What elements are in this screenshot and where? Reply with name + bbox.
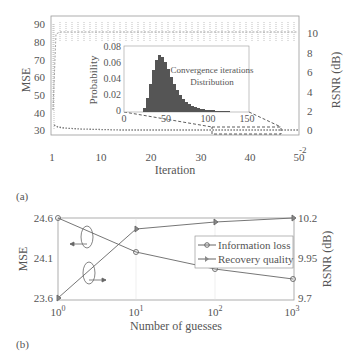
svg-text:150: 150 — [240, 113, 255, 124]
svg-text:40: 40 — [34, 107, 46, 119]
svg-text:0.04: 0.04 — [104, 73, 122, 84]
svg-text:70: 70 — [34, 54, 46, 66]
svg-text:20: 20 — [146, 151, 158, 163]
svg-text:10: 10 — [96, 151, 108, 163]
x-ticks: 100 101 102 103 — [51, 304, 300, 318]
svg-text:40: 40 — [245, 151, 257, 163]
legend: Information loss Recovery quality — [195, 236, 294, 268]
svg-text:4: 4 — [307, 86, 313, 98]
y-left-ticks: 24.6 24.1 23.6 — [34, 212, 54, 304]
svg-text:9.7: 9.7 — [298, 292, 312, 304]
legend-recovery-quality: Recovery quality — [218, 253, 294, 265]
axis-annotations — [70, 226, 106, 284]
panel-b-label: (b) — [16, 338, 29, 351]
svg-text:50: 50 — [34, 89, 46, 101]
panel-a-label: (a) — [16, 190, 29, 203]
svg-text:24.1: 24.1 — [34, 252, 53, 264]
svg-text:Probability: Probability — [87, 55, 99, 104]
panel-a-chart: 90 80 70 60 50 40 30 MSE 10 8 6 4 2 0 -2… — [19, 16, 343, 177]
svg-text:103: 103 — [285, 304, 300, 318]
y-right-ticks: 10.2 9.95 9.7 — [298, 212, 318, 304]
svg-text:102: 102 — [208, 304, 223, 318]
svg-text:6: 6 — [307, 66, 313, 78]
svg-text:Distribution: Distribution — [190, 77, 234, 87]
svg-text:10.2: 10.2 — [298, 212, 317, 224]
svg-text:Convergence iterations: Convergence iterations — [170, 65, 254, 75]
x-ticks: 1 10 20 30 40 50 — [49, 151, 305, 163]
x-label: Iteration — [155, 163, 196, 177]
svg-text:30: 30 — [196, 151, 208, 163]
svg-text:0: 0 — [307, 124, 313, 136]
svg-text:23.6: 23.6 — [34, 292, 54, 304]
svg-text:1: 1 — [49, 151, 55, 163]
y-right-ticks: 10 8 6 4 2 0 -2 — [299, 27, 319, 155]
svg-text:24.6: 24.6 — [34, 212, 54, 224]
svg-text:8: 8 — [307, 47, 313, 59]
svg-text:0: 0 — [116, 105, 121, 116]
svg-text:50: 50 — [294, 151, 306, 163]
svg-text:50: 50 — [161, 113, 171, 124]
y-left-ticks: 90 80 70 60 50 40 30 — [34, 18, 46, 136]
y-left-label: MSE — [16, 247, 30, 272]
svg-text:90: 90 — [34, 18, 46, 30]
x-label: Number of guesses — [130, 319, 222, 333]
legend-information-loss: Information loss — [218, 239, 290, 251]
svg-text:0.06: 0.06 — [104, 57, 122, 68]
svg-text:101: 101 — [129, 304, 144, 318]
y-left-label: MSE — [19, 68, 33, 93]
inset-histogram: 0.08 0.06 0.04 0.02 0 0 50 100 150 Proba… — [87, 41, 255, 124]
figure: 90 80 70 60 50 40 30 MSE 10 8 6 4 2 0 -2… — [0, 0, 354, 354]
svg-text:60: 60 — [34, 71, 46, 83]
panel-b-chart: 24.6 24.1 23.6 MSE 10.2 9.95 9.7 RSNR (d… — [16, 212, 334, 333]
svg-text:0.08: 0.08 — [104, 41, 122, 52]
svg-text:100: 100 — [201, 113, 216, 124]
y-right-label: RSNR (dB) — [329, 52, 343, 108]
y-right-label: RSNR (dB) — [320, 231, 334, 287]
svg-text:30: 30 — [34, 124, 46, 136]
svg-text:0: 0 — [122, 113, 127, 124]
svg-text:10: 10 — [307, 27, 319, 39]
svg-text:2: 2 — [307, 105, 313, 117]
svg-text:9.95: 9.95 — [298, 252, 318, 264]
svg-text:80: 80 — [34, 36, 46, 48]
svg-text:100: 100 — [51, 304, 66, 318]
svg-text:0.02: 0.02 — [104, 89, 122, 100]
